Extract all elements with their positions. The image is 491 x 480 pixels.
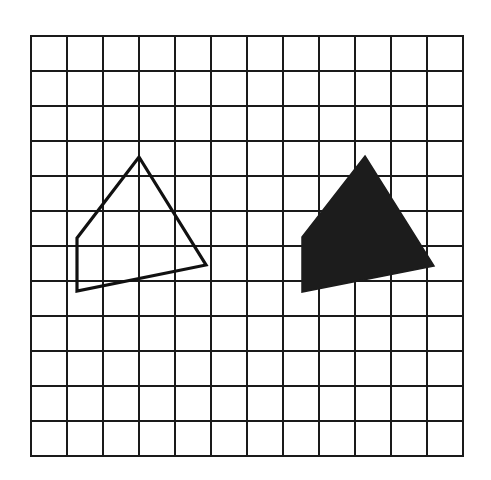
outlined-quadrilateral: [77, 157, 206, 291]
grid-diagram: [0, 0, 491, 480]
